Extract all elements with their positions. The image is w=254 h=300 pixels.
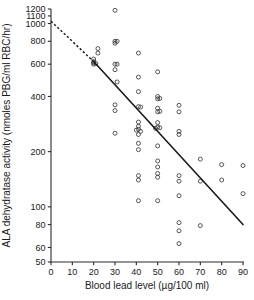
- data-point: [115, 80, 119, 84]
- x-tick-label: 60: [174, 267, 184, 277]
- data-point: [177, 110, 181, 114]
- x-tick-label: 30: [110, 267, 120, 277]
- y-tick-label: 80: [35, 220, 45, 230]
- data-point: [177, 174, 181, 178]
- data-point: [177, 179, 181, 183]
- scatter-plot: 506080100200400600800100011001200 010203…: [0, 0, 254, 300]
- x-axis-label: Blood lead level (µg/100 ml): [85, 280, 209, 291]
- data-point: [177, 221, 181, 225]
- y-axis-label: ALA dehydratase activity (nmoles PBG/ml …: [1, 24, 12, 248]
- data-point: [177, 242, 181, 246]
- data-point: [177, 194, 181, 198]
- y-tick-label: 800: [30, 36, 45, 46]
- data-point: [113, 131, 117, 135]
- y-tick-label: 1200: [25, 4, 45, 14]
- x-tick-label: 10: [67, 267, 77, 277]
- regression-line-extrapolated: [51, 21, 94, 61]
- x-tick-label: 90: [238, 267, 248, 277]
- chart-container: 506080100200400600800100011001200 010203…: [0, 0, 254, 300]
- data-point: [156, 165, 160, 169]
- x-tick-label: 80: [217, 267, 227, 277]
- x-axis-ticks: 0102030405060708090: [48, 262, 248, 277]
- data-point: [220, 163, 224, 167]
- data-point: [136, 51, 140, 55]
- y-tick-label: 60: [35, 243, 45, 253]
- data-point: [156, 199, 160, 203]
- data-point: [156, 159, 160, 163]
- data-point: [177, 103, 181, 107]
- data-point: [156, 121, 160, 125]
- data-point: [136, 178, 140, 182]
- x-tick-label: 0: [48, 267, 53, 277]
- data-point: [241, 164, 245, 168]
- data-point: [136, 199, 140, 203]
- x-tick-label: 70: [195, 267, 205, 277]
- data-point: [136, 174, 140, 178]
- data-point: [136, 90, 140, 94]
- data-point: [136, 148, 140, 152]
- data-point: [136, 120, 140, 124]
- y-tick-label: 400: [30, 92, 45, 102]
- data-point: [113, 109, 117, 113]
- data-point: [136, 133, 140, 137]
- x-tick-label: 50: [153, 267, 163, 277]
- data-point: [241, 192, 245, 196]
- data-point: [136, 141, 140, 145]
- data-point: [156, 144, 160, 148]
- data-point: [198, 157, 202, 161]
- y-tick-label: 50: [35, 257, 45, 267]
- y-tick-label: 200: [30, 147, 45, 157]
- data-point: [113, 103, 117, 107]
- y-axis-ticks: 506080100200400600800100011001200: [25, 4, 51, 267]
- y-tick-label: 100: [30, 202, 45, 212]
- data-point: [96, 47, 100, 51]
- x-tick-label: 40: [131, 267, 141, 277]
- x-tick-label: 20: [89, 267, 99, 277]
- regression-line: [94, 62, 243, 225]
- data-point: [156, 70, 160, 74]
- data-point: [113, 68, 117, 72]
- data-point: [96, 51, 100, 55]
- data-point: [198, 224, 202, 228]
- data-point: [113, 8, 117, 12]
- data-point: [136, 75, 140, 79]
- y-tick-label: 600: [30, 59, 45, 69]
- data-point: [220, 178, 224, 182]
- data-points: [92, 8, 245, 245]
- data-point: [177, 229, 181, 233]
